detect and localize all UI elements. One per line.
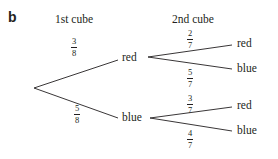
prob-first-red: 3 8: [71, 37, 77, 57]
prob-red-blue: 5 7: [187, 68, 193, 88]
prob-blue-blue: 4 7: [187, 129, 193, 149]
outcome-red-red: red: [237, 38, 252, 50]
outcome-blue-red: red: [237, 100, 252, 112]
outcome-first-red: red: [122, 52, 137, 64]
outcome-first-blue: blue: [122, 112, 142, 124]
part-label: b: [8, 10, 17, 24]
probability-tree-diagram: b 1st cube 2nd cube red blue 3 8 5 8 red…: [0, 0, 278, 159]
header-second-cube: 2nd cube: [172, 14, 214, 26]
branch-first-red: [34, 60, 118, 88]
outcome-blue-blue: blue: [237, 125, 257, 137]
outcome-red-blue: blue: [237, 63, 257, 75]
prob-red-red: 2 7: [187, 29, 193, 49]
prob-blue-red: 3 7: [187, 94, 193, 114]
prob-first-blue: 5 8: [74, 104, 80, 124]
header-first-cube: 1st cube: [55, 14, 93, 26]
